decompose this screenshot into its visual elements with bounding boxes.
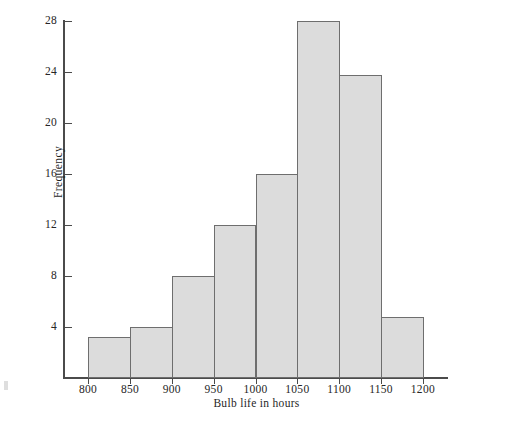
x-axis-title: Bulb life in hours: [0, 397, 513, 410]
histogram-figure: 481216202428 800850900950100010501100115…: [0, 0, 513, 424]
histogram-bar: [256, 174, 299, 378]
y-tick-label: 28: [27, 15, 57, 27]
y-tick-mark: [65, 123, 72, 124]
y-tick-mark: [65, 21, 72, 22]
y-tick-mark: [65, 72, 72, 73]
x-tick-label: 1000: [234, 383, 278, 395]
histogram-bar: [130, 327, 173, 378]
y-axis-title: Frequency: [52, 132, 64, 212]
histogram-bar: [88, 337, 131, 378]
y-tick-mark: [65, 225, 72, 226]
page-margin-artifact: [4, 381, 8, 390]
x-tick-label: 1150: [359, 383, 403, 395]
x-tick-label: 800: [66, 383, 110, 395]
y-tick-label: 4: [27, 321, 57, 333]
histogram-bar: [297, 21, 340, 378]
histogram-bar: [339, 75, 382, 378]
histogram-bar: [172, 276, 215, 378]
histogram-bar: [381, 317, 424, 378]
y-tick-label: 24: [27, 66, 57, 78]
y-tick-label: 8: [27, 270, 57, 282]
x-tick-label: 1200: [401, 383, 445, 395]
histogram-bar: [214, 225, 257, 378]
x-tick-label: 900: [150, 383, 194, 395]
x-tick-label: 850: [108, 383, 152, 395]
x-tick-label: 950: [192, 383, 236, 395]
y-tick-mark: [65, 174, 72, 175]
x-tick-label: 1050: [275, 383, 319, 395]
y-tick-label: 20: [27, 117, 57, 129]
x-tick-label: 1100: [317, 383, 361, 395]
y-tick-mark: [65, 327, 72, 328]
y-tick-mark: [65, 276, 72, 277]
y-tick-label: 12: [27, 219, 57, 231]
